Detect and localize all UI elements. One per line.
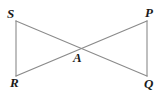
vertex-label-s: S	[7, 7, 14, 20]
vertex-label-r: R	[10, 76, 19, 89]
vertex-label-q: Q	[144, 77, 153, 90]
geometry-figure: S P R Q A	[0, 0, 159, 96]
figure-canvas	[0, 0, 159, 96]
vertex-label-p: P	[145, 6, 153, 19]
vertex-label-a: A	[73, 51, 82, 64]
